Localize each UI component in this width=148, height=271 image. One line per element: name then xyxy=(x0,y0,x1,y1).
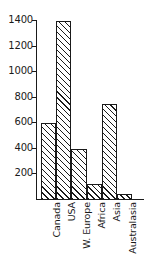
y-axis-tick-label: 800 xyxy=(15,92,34,102)
x-axis-label-usa: USA xyxy=(67,202,77,221)
x-axis-label-canada: Canada xyxy=(52,202,62,238)
y-axis-tick-label: 200 xyxy=(15,168,34,178)
y-axis-tick-label: 1000 xyxy=(8,66,33,76)
bar-usa xyxy=(56,21,71,200)
bar-chart-figure: 200400600800100012001400 CanadaUSAW. Eur… xyxy=(0,0,148,271)
bar-canada xyxy=(41,123,56,200)
x-axis-label-africa: Africa xyxy=(97,202,107,229)
bar-africa xyxy=(87,184,102,200)
x-axis-label-australasia: Australasia xyxy=(128,202,138,254)
x-axis-label-w-europe: W. Europe xyxy=(82,202,92,249)
bar-w-europe xyxy=(71,149,86,200)
bars-layer xyxy=(37,14,144,200)
y-axis-tick-label: 1400 xyxy=(8,15,33,25)
plot-area: 200400600800100012001400 xyxy=(36,14,144,206)
y-axis-tick-label: 600 xyxy=(15,117,34,127)
x-axis-category-labels: CanadaUSAW. EuropeAfricaAsiaAustralasia xyxy=(36,199,148,271)
x-axis-label-asia: Asia xyxy=(112,202,122,222)
y-axis-tick-label: 400 xyxy=(15,143,34,153)
bar-asia xyxy=(102,104,117,200)
y-axis-tick-label: 1200 xyxy=(8,41,33,51)
